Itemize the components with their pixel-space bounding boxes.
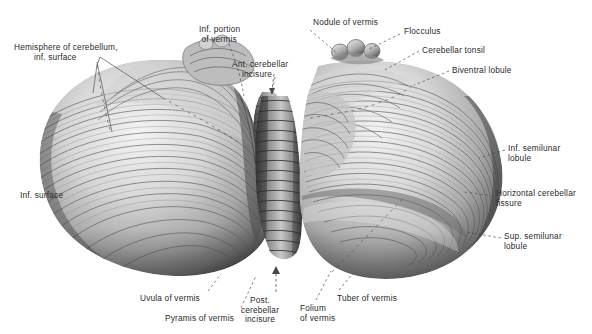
label-inf-semilunar-lobule: Inf. semilunar lobule: [508, 144, 560, 163]
label-flocculus: Flocculus: [404, 27, 441, 37]
label-nodule-of-vermis: Nodule of vermis: [313, 18, 378, 28]
label-inf-portion-of-vermis: Inf. portion of vermis: [199, 25, 240, 44]
left-hemisphere: [20, 60, 290, 288]
label-ant-cerebellar-incisure: Ant. cerebellar incisure: [232, 60, 288, 79]
leader-uvula: [208, 274, 221, 291]
label-cerebellar-tonsil: Cerebellar tonsil: [422, 46, 485, 56]
label-post-cerebellar-incisure: Post. cerebellar incisure: [232, 296, 288, 325]
label-folium-of-vermis: Folium of vermis: [300, 304, 335, 323]
label-horizontal-cerebellar-fissure: Horizontal cerebellar fissure: [496, 189, 576, 208]
label-sup-semilunar-lobule: Sup. semilunar lobule: [504, 232, 562, 251]
label-pyramis-of-vermis: Pyramis of vermis: [165, 314, 234, 324]
anatomical-figure-plate: Hemisphere of cerebellum, inf. surface I…: [0, 0, 592, 334]
nodule-and-flocculi: [330, 40, 384, 65]
arrow-post-incisure-head: [272, 266, 280, 274]
label-tuber-of-vermis: Tuber of vermis: [337, 294, 397, 304]
leader-folium: [316, 271, 331, 300]
right-hemisphere: [296, 61, 511, 290]
label-hemisphere-of-cerebellum-inf-surface: Hemisphere of cerebellum, inf. surface: [14, 43, 118, 62]
leader-tuber: [339, 273, 353, 290]
label-inf-surface: Inf. surface: [20, 191, 63, 201]
leader-nodule: [310, 30, 338, 54]
label-biventral-lobule: Biventral lobule: [452, 66, 512, 76]
label-uvula-of-vermis: Uvula of vermis: [140, 294, 200, 304]
